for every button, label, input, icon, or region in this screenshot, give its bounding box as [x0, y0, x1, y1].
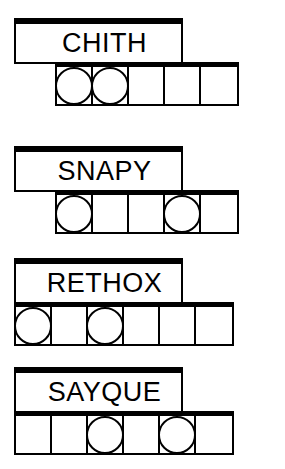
letter-cell[interactable] [201, 67, 237, 104]
circle-marker-icon [158, 416, 196, 454]
letter-cell[interactable] [57, 67, 93, 104]
word-label-text: SNAPY [57, 158, 151, 185]
letter-cell[interactable] [16, 307, 52, 344]
word-label-box: SAYQUE [14, 367, 183, 413]
letter-cell[interactable] [201, 195, 237, 232]
letter-cell[interactable] [88, 307, 124, 344]
circle-marker-icon [55, 195, 93, 233]
letter-cell[interactable] [165, 195, 201, 232]
letter-cell[interactable] [160, 416, 196, 453]
word-shape-puzzle-board: CHITH SNAPY [0, 0, 285, 469]
letter-cell[interactable] [93, 195, 129, 232]
circle-marker-icon [86, 307, 124, 345]
letter-cell[interactable] [88, 416, 124, 453]
letter-grid [14, 411, 234, 455]
circle-marker-icon [91, 67, 129, 105]
letter-cell[interactable] [160, 307, 196, 344]
word-label-box: RETHOX [14, 258, 183, 304]
letter-cell[interactable] [124, 307, 160, 344]
letter-cell[interactable] [196, 307, 232, 344]
circle-marker-icon [55, 67, 93, 105]
letter-cell[interactable] [52, 307, 88, 344]
letter-cell[interactable] [124, 416, 160, 453]
letter-grid [55, 190, 239, 234]
word-label-box: CHITH [14, 18, 183, 64]
word-label-text: RETHOX [47, 270, 163, 297]
letter-cell[interactable] [52, 416, 88, 453]
letter-cell[interactable] [165, 67, 201, 104]
letter-cell[interactable] [57, 195, 93, 232]
word-label-box: SNAPY [14, 146, 183, 192]
letter-cell[interactable] [93, 67, 129, 104]
letter-grid [14, 302, 234, 346]
word-label-text: CHITH [62, 30, 147, 57]
letter-grid [55, 62, 239, 106]
letter-cell[interactable] [129, 67, 165, 104]
letter-cell[interactable] [196, 416, 232, 453]
word-label-text: SAYQUE [48, 379, 162, 406]
letter-cell[interactable] [16, 416, 52, 453]
circle-marker-icon [14, 307, 52, 345]
letter-cell[interactable] [129, 195, 165, 232]
circle-marker-icon [163, 195, 201, 233]
circle-marker-icon [86, 416, 124, 454]
